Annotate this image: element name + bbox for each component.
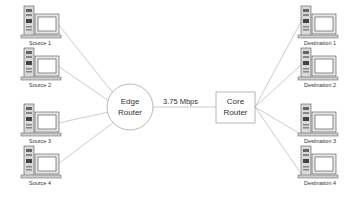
source-3-label: Source 3: [10, 138, 70, 144]
destination-4-computer-icon: [298, 146, 338, 178]
source-2-label: Source 2: [10, 82, 70, 88]
destination-4-label: Destination 4: [290, 180, 350, 186]
destination-1-label: Destination 1: [290, 40, 350, 46]
source-1-computer-icon: [21, 6, 61, 38]
source-1-label: Source 1: [10, 40, 70, 46]
destination-2-computer-icon: [298, 48, 338, 80]
edge-router-label: Edge Router: [107, 96, 153, 118]
destination-3-label: Destination 3: [290, 138, 350, 144]
destination-1-computer-icon: [298, 6, 338, 38]
bottleneck-link-label: 3.75 Mbps: [163, 97, 198, 106]
core-router-label: Core Router: [216, 96, 255, 118]
source-4-computer-icon: [21, 146, 61, 178]
edge-router-line1: Edge: [107, 96, 153, 107]
core-router-line2: Router: [216, 107, 255, 118]
edge-router-line2: Router: [107, 107, 153, 118]
source-4-label: Source 4: [10, 180, 70, 186]
destination-2-label: Destination 2: [290, 82, 350, 88]
source-3-computer-icon: [21, 104, 61, 136]
source-2-computer-icon: [21, 48, 61, 80]
destination-3-computer-icon: [298, 104, 338, 136]
core-router-line1: Core: [216, 96, 255, 107]
